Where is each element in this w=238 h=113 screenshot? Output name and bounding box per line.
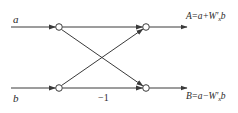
node-output-bottom (143, 85, 150, 92)
node-output-top (143, 24, 150, 31)
output-B-rhs-suffix: b (221, 91, 226, 101)
input-label-b: b (13, 93, 19, 104)
output-label-A: A=a+W'xb (186, 12, 225, 23)
input-label-a: a (13, 14, 19, 25)
node-input-top (56, 24, 63, 31)
node-input-bottom (56, 85, 63, 92)
output-A-rhs-prefix: a+W' (198, 11, 218, 21)
output-label-B: B=a−W'xb (186, 92, 225, 103)
output-A-rhs-suffix: b (221, 11, 226, 21)
coefficient-label: −1 (98, 93, 109, 103)
butterfly-diagram: a b −1 A=a+W'xb B=a−W'xb (0, 0, 238, 113)
output-B-rhs-prefix: a−W' (198, 91, 218, 101)
